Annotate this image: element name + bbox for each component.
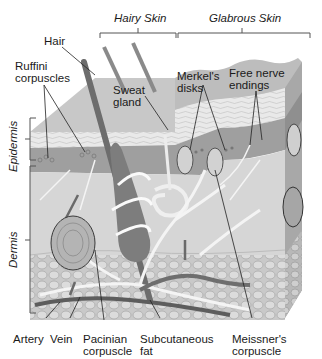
region-label-glabrous-skin: Glabrous Skin xyxy=(209,12,281,25)
label-hair: Hair xyxy=(44,35,65,48)
label-sweat-line2: gland xyxy=(113,96,141,109)
meissner-corpuscle-side xyxy=(287,124,301,156)
label-free-nerve-line2: endings xyxy=(229,79,269,92)
label-ruffini-line1: Ruffini xyxy=(15,60,47,73)
layer-label-dermis: Dermis xyxy=(7,232,19,268)
label-subcutaneous-line2: fat xyxy=(140,345,153,358)
label-meissner-line2: corpuscle xyxy=(232,345,281,358)
pacinian-corpuscle-side xyxy=(283,187,303,227)
label-artery: Artery xyxy=(13,333,44,346)
layer-label-epidermis: Epidermis xyxy=(7,121,19,172)
label-free-nerve-line1: Free nerve xyxy=(229,67,285,80)
pacinian-corpuscle xyxy=(51,216,95,270)
label-merkel-line1: Merkel's xyxy=(177,70,219,83)
label-merkel-line2: disks xyxy=(177,82,203,95)
label-sweat-line1: Sweat xyxy=(113,84,145,97)
label-vein: Vein xyxy=(50,333,72,346)
label-pacinian-line1: Pacinian xyxy=(83,333,127,346)
label-subcutaneous-line1: Subcutaneous xyxy=(140,333,214,346)
skin-diagram xyxy=(0,0,322,359)
meissner-corpuscle-2 xyxy=(207,148,223,176)
label-pacinian-line2: corpuscle xyxy=(83,345,132,358)
region-label-hairy-skin: Hairy Skin xyxy=(114,12,166,25)
label-ruffini-line2: corpuscles xyxy=(15,72,70,85)
label-meissner-line1: Meissner's xyxy=(232,333,287,346)
meissner-corpuscle-1 xyxy=(177,146,193,174)
